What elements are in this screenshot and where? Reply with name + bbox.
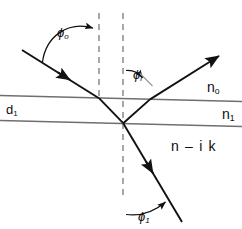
incident-ray-arrow-icon (58, 72, 70, 80)
angle-label-transmitted-subscript: 1 (145, 216, 149, 225)
diagram-canvas (0, 0, 242, 229)
incident-ray (22, 50, 99, 98)
index-label-ambient-symbol: n (207, 79, 215, 95)
index-label-film-subscript: 1 (230, 113, 235, 123)
ambient-film-interface (0, 96, 242, 102)
angle-label-incident: ϕo (57, 26, 69, 41)
refracted-ray-in-film (99, 98, 123, 123)
thickness-label-film: d1 (6, 103, 18, 118)
index-label-film-symbol: n (222, 106, 230, 122)
normal-lines (99, 13, 123, 200)
index-label-film: n1 (222, 107, 235, 123)
film-internal-ray (99, 98, 150, 123)
complex-index-label: n – i k (171, 139, 217, 153)
ray-diagram-figure: ϕo ϕi ϕ1 no n1 d1 n – i k (0, 0, 242, 229)
angle-label-transmitted: ϕ1 (138, 210, 150, 225)
angle-label-internal-subscript: i (140, 74, 142, 83)
angle-arcs (43, 26, 166, 215)
reflected-ray-in-film (123, 99, 150, 123)
thickness-label-film-subscript: 1 (13, 109, 17, 118)
transmitted-ray-arrow-icon (146, 162, 153, 174)
angle-label-internal: ϕi (133, 68, 142, 83)
index-label-ambient: no (207, 80, 220, 96)
index-label-ambient-subscript: o (215, 86, 220, 96)
angle-label-incident-subscript: o (64, 32, 68, 41)
